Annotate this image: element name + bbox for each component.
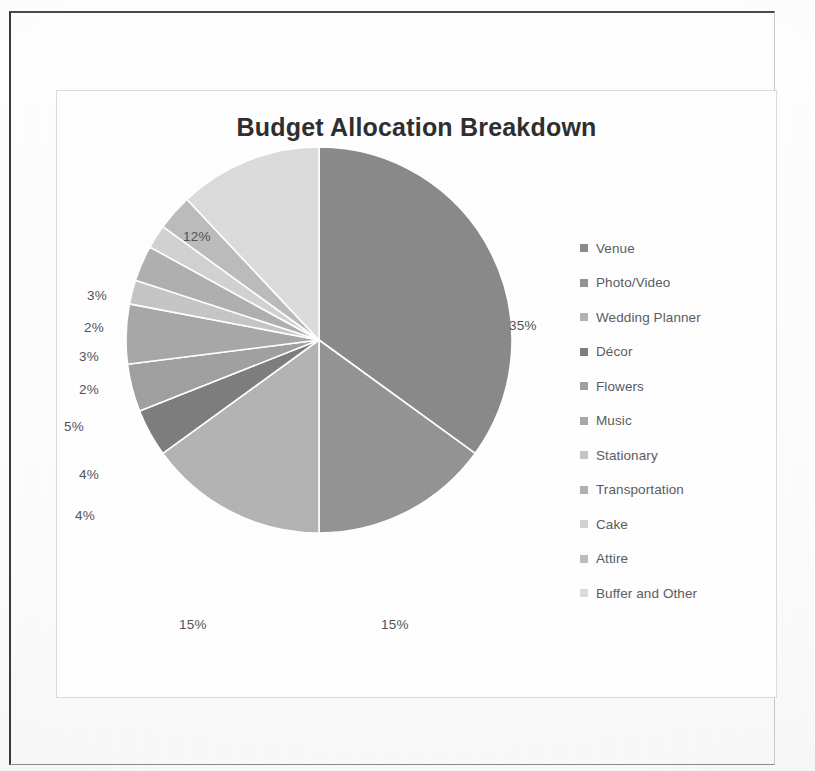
legend-item[interactable]: Cake	[580, 507, 770, 542]
pie-data-label: 12%	[183, 229, 211, 244]
pie-data-label: 3%	[87, 288, 107, 303]
legend-swatch-icon	[580, 244, 588, 252]
legend-item-label: Décor	[596, 344, 633, 359]
legend-item[interactable]: Transportation	[580, 473, 770, 508]
legend-item-label: Venue	[596, 241, 635, 256]
legend-swatch-icon	[580, 382, 588, 390]
legend-swatch-icon	[580, 589, 588, 597]
pie-data-label: 2%	[84, 320, 104, 335]
legend-item[interactable]: Wedding Planner	[580, 300, 770, 335]
legend-swatch-icon	[580, 555, 588, 563]
legend-item-label: Cake	[596, 517, 628, 532]
legend-item[interactable]: Décor	[580, 335, 770, 370]
legend-swatch-icon	[580, 451, 588, 459]
pie-data-label: 3%	[79, 349, 99, 364]
legend-item-label: Stationary	[596, 448, 658, 463]
legend-item-label: Music	[596, 413, 632, 428]
legend-item-label: Buffer and Other	[596, 586, 697, 601]
legend-swatch-icon	[580, 520, 588, 528]
pie-slice-group	[126, 147, 512, 533]
legend-swatch-icon	[580, 279, 588, 287]
legend-item-label: Attire	[596, 551, 628, 566]
pie-data-label: 15%	[179, 617, 207, 632]
legend-item-label: Transportation	[596, 482, 684, 497]
legend-swatch-icon	[580, 417, 588, 425]
legend-item-label: Flowers	[596, 379, 644, 394]
legend-swatch-icon	[580, 486, 588, 494]
plot-area: 35%15%15%4%4%5%2%3%2%3%12% VenuePhoto/Vi…	[57, 91, 778, 699]
pie-chart	[123, 144, 515, 536]
pie-data-label: 2%	[79, 382, 99, 397]
scanned-page: Budget Allocation Breakdown 35%15%15%4%4…	[0, 0, 815, 771]
pie-data-label: 4%	[79, 467, 99, 482]
legend-item[interactable]: Photo/Video	[580, 266, 770, 301]
pie-chart-svg	[123, 144, 515, 536]
legend-item-label: Wedding Planner	[596, 310, 701, 325]
pie-data-label: 35%	[509, 318, 537, 333]
legend-item[interactable]: Music	[580, 404, 770, 439]
legend-item-label: Photo/Video	[596, 275, 670, 290]
legend-item[interactable]: Buffer and Other	[580, 576, 770, 611]
pie-data-label: 4%	[75, 508, 95, 523]
chart-legend: VenuePhoto/VideoWedding PlannerDécorFlow…	[580, 231, 770, 611]
chart-container: Budget Allocation Breakdown 35%15%15%4%4…	[56, 90, 777, 698]
legend-swatch-icon	[580, 313, 588, 321]
legend-item[interactable]: Flowers	[580, 369, 770, 404]
legend-item[interactable]: Stationary	[580, 438, 770, 473]
legend-swatch-icon	[580, 348, 588, 356]
legend-item[interactable]: Attire	[580, 542, 770, 577]
legend-item[interactable]: Venue	[580, 231, 770, 266]
pie-data-label: 15%	[381, 617, 409, 632]
pie-data-label: 5%	[64, 419, 84, 434]
